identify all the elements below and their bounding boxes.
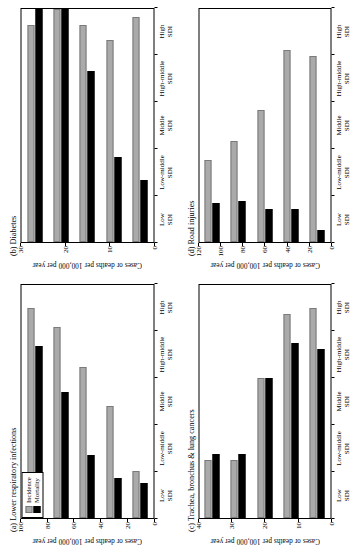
category-label: LowSDI (334, 489, 350, 502)
bar-group (128, 9, 152, 242)
panel-a-y-ticks: 020406080100 (20, 519, 154, 535)
category-tick-mark (331, 101, 334, 102)
bar-mortality-middle-sdi (87, 455, 94, 518)
legend-row-incidence: Incidence (24, 477, 32, 513)
panel-c-y-tick-mark (230, 519, 231, 522)
category-label: MiddleSDI (334, 115, 350, 135)
panel-c-y-axis-label: Cases or deaths per 100,000 per year (198, 535, 332, 546)
bar-group (252, 9, 276, 242)
panel-a-y-tick-mark (100, 519, 101, 522)
category-tick-mark (154, 471, 157, 472)
panel-a-y-tick-mark (153, 519, 154, 522)
panel-b-plot-area (20, 8, 154, 243)
panel-b-y-axis-label: Cases or deaths per 100,000 per year (20, 259, 154, 270)
category-tick-mark (331, 283, 334, 284)
category-label: HighSDI (334, 301, 350, 315)
bar-mortality-low-sdi (212, 454, 219, 518)
category-label: HighSDI (157, 301, 173, 315)
panel-d-bars (199, 9, 331, 242)
panel-b-category-labels: LowSDILow-middleSDIMiddleSDIHigh-middleS… (154, 8, 174, 243)
category-tick-mark (331, 54, 334, 55)
panel-d-y-tick-mark (264, 243, 265, 246)
bar-incidence-high-sdi (309, 308, 316, 518)
category-label: HighSDI (157, 25, 173, 39)
bar-group (279, 9, 303, 242)
category-label: Low-middleSDI (157, 431, 173, 466)
bar-incidence-middle-sdi (257, 110, 264, 242)
panel-c-bars (199, 285, 331, 518)
panel-d-y-tick-label: 60 (260, 246, 268, 253)
panel-a-plot-wrap: Cases or deaths per 100,000 per year 020… (20, 284, 154, 546)
bar-group (128, 285, 152, 518)
multi-panel-bar-chart-figure: (a) Lower respiratory infections Cases o… (0, 0, 355, 552)
bar-mortality-middle-sdi (87, 71, 94, 242)
panel-b-y-tick-mark (20, 243, 21, 246)
panel-b-diabetes: (b) Diabetes Cases or deaths per 100,000… (0, 0, 178, 276)
category-tick-mark (154, 377, 157, 378)
category-tick-mark (154, 148, 157, 149)
bar-incidence-high-sdi (132, 471, 139, 518)
legend-row-mortality: Mortality (32, 477, 40, 513)
panel-c-plot-area (198, 284, 332, 519)
bar-incidence-high-middle-sdi (283, 314, 290, 518)
panel-b-y-tick-label: 10 (105, 246, 113, 253)
bar-mortality-high-sdi (140, 180, 147, 242)
panel-d-y-tick-label: 100 (216, 246, 224, 257)
category-tick-mark (154, 330, 157, 331)
panel-d-y-tick-mark (308, 243, 309, 246)
bar-group (305, 285, 329, 518)
panel-d-title: (d) Road injuries (186, 8, 196, 256)
panel-c-trachea-bronchus-lung-cancers: (c) Trachea, bronchus & lung cancers Cas… (178, 276, 355, 552)
panel-d-plot-wrap: Cases or deaths per 100,000 per year 020… (198, 8, 332, 270)
bar-group (22, 9, 46, 242)
bar-incidence-middle-sdi (79, 367, 86, 518)
panel-d-y-tick-label: 120 (194, 246, 202, 257)
bar-group (279, 285, 303, 518)
panel-c-y-tick-mark (197, 519, 198, 522)
category-label: MiddleSDI (157, 391, 173, 411)
category-label: LowSDI (334, 213, 350, 226)
bar-mortality-low-middle-sdi (61, 392, 68, 518)
bar-incidence-low-sdi (204, 160, 211, 242)
bar-mortality-low-middle-sdi (61, 9, 68, 242)
panel-a-y-tick-mark (73, 519, 74, 522)
category-tick-mark (154, 195, 157, 196)
panel-c-title: (c) Trachea, bronchus & lung cancers (186, 284, 196, 532)
panel-b-y-tick-label: 20 (61, 246, 69, 253)
bar-incidence-low-middle-sdi (230, 460, 237, 518)
panel-d-y-tick-label: 0 (327, 246, 335, 250)
bar-group (252, 285, 276, 518)
panel-a-y-axis-label: Cases or deaths per 100,000 per year (20, 535, 154, 546)
bar-mortality-middle-sdi (265, 209, 272, 242)
bar-incidence-middle-sdi (257, 378, 264, 518)
legend-swatch-mortality (33, 506, 40, 513)
bar-mortality-low-middle-sdi (238, 201, 245, 242)
panel-b-y-tick-mark (109, 243, 110, 246)
bar-mortality-high-sdi (317, 349, 324, 518)
bar-group (101, 9, 125, 242)
panel-a-y-tick-label: 20 (123, 522, 131, 529)
category-tick-mark (154, 54, 157, 55)
panel-c-y-tick-mark (331, 519, 332, 522)
bar-group (226, 9, 250, 242)
category-tick-mark (331, 242, 334, 243)
bar-group (200, 285, 224, 518)
panel-b-y-ticks: 0102030 (20, 243, 154, 259)
bar-group (200, 9, 224, 242)
category-tick-mark (154, 101, 157, 102)
bar-mortality-high-sdi (317, 230, 324, 242)
panel-d-y-tick-label: 20 (305, 246, 313, 253)
panel-b-y-tick-mark (153, 243, 154, 246)
panel-c-y-tick-label: 20 (260, 522, 268, 529)
bar-mortality-high-middle-sdi (114, 157, 121, 242)
panel-d-road-injuries: (d) Road injuries Cases or deaths per 10… (178, 0, 355, 276)
panel-d-y-tick-label: 80 (238, 246, 246, 253)
category-tick-mark (331, 7, 334, 8)
category-label: High-middleSDI (334, 337, 350, 373)
panel-d-y-axis-label: Cases or deaths per 100,000 per year (198, 259, 332, 270)
bar-incidence-low-middle-sdi (53, 327, 60, 518)
category-tick-mark (154, 424, 157, 425)
panel-d-y-tick-mark (197, 243, 198, 246)
bar-group (75, 9, 99, 242)
figure-rotator: (a) Lower respiratory infections Cases o… (0, 0, 355, 552)
